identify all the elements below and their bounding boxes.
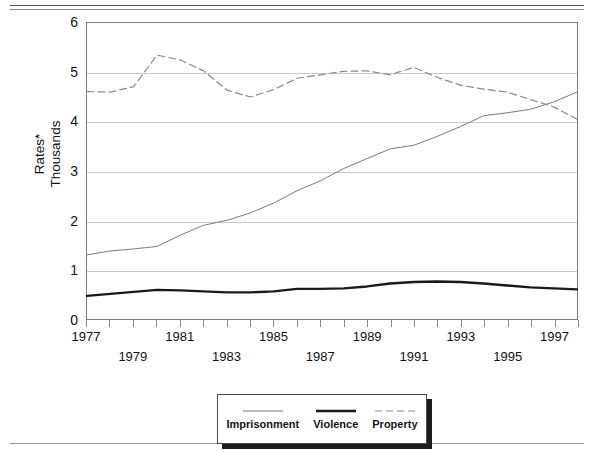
- y-axis-title: Rates* Thousands: [26, 84, 70, 224]
- legend-swatch-icon: [242, 408, 284, 414]
- x-tick: [273, 320, 274, 327]
- x-tick: [414, 320, 415, 327]
- y-tick-label: 5: [56, 65, 78, 79]
- x-tick: [508, 320, 509, 327]
- legend-label: Imprisonment: [226, 419, 299, 430]
- legend-swatch-icon: [374, 408, 416, 414]
- legend-label: Violence: [313, 419, 358, 430]
- legend-item-violence[interactable]: Violence: [313, 408, 358, 430]
- x-tick-label: 1979: [110, 350, 156, 363]
- x-axis-ticks: [86, 320, 578, 328]
- x-tick: [227, 320, 228, 327]
- x-tick: [531, 320, 532, 327]
- x-tick: [180, 320, 181, 327]
- x-tick: [391, 320, 392, 327]
- series-line-imprisonment: [87, 92, 577, 255]
- legend-swatch-icon: [315, 408, 357, 414]
- series-line-property: [87, 55, 577, 119]
- x-tick-label: 1977: [63, 330, 109, 343]
- legend-item-imprisonment[interactable]: Imprisonment: [226, 408, 299, 430]
- page-rule-top-outer: [10, 5, 584, 6]
- x-tick: [203, 320, 204, 327]
- plot-area: [86, 22, 578, 320]
- legend-item-property[interactable]: Property: [372, 408, 417, 430]
- x-tick: [250, 320, 251, 327]
- x-tick-label: 1983: [204, 350, 250, 363]
- y-tick-label: 6: [56, 15, 78, 29]
- x-tick-label: 1985: [250, 330, 296, 343]
- y-tick-label: 1: [56, 263, 78, 277]
- y-tick-label: 2: [56, 214, 78, 228]
- x-tick: [133, 320, 134, 327]
- x-tick: [484, 320, 485, 327]
- x-tick: [461, 320, 462, 327]
- chart-legend: ImprisonmentViolenceProperty: [217, 394, 427, 444]
- x-tick-label: 1993: [438, 330, 484, 343]
- x-tick-label: 1991: [391, 350, 437, 363]
- x-tick: [344, 320, 345, 327]
- y-tick-label: 0: [56, 313, 78, 327]
- series-lines: [87, 23, 577, 319]
- x-tick: [555, 320, 556, 327]
- x-tick-label: 1989: [344, 330, 390, 343]
- figure-page: Rates* Thousands 0123456 197719791981198…: [0, 0, 592, 452]
- legend-label: Property: [372, 419, 417, 430]
- x-tick-label: 1987: [297, 350, 343, 363]
- x-tick: [297, 320, 298, 327]
- y-axis-title-line1: Rates*: [32, 134, 48, 175]
- y-tick-label: 4: [56, 114, 78, 128]
- series-line-violence: [87, 282, 577, 296]
- y-tick-label: 3: [56, 164, 78, 178]
- x-tick: [109, 320, 110, 327]
- x-tick: [578, 320, 579, 327]
- x-tick-label: 1981: [157, 330, 203, 343]
- line-chart: Rates* Thousands 0123456 197719791981198…: [0, 14, 592, 444]
- x-tick: [86, 320, 87, 327]
- x-tick-label: 1995: [485, 350, 531, 363]
- x-tick: [156, 320, 157, 327]
- page-rule-top-inner: [10, 9, 584, 10]
- x-tick: [437, 320, 438, 327]
- x-tick-label: 1997: [532, 330, 578, 343]
- x-tick: [320, 320, 321, 327]
- x-tick: [367, 320, 368, 327]
